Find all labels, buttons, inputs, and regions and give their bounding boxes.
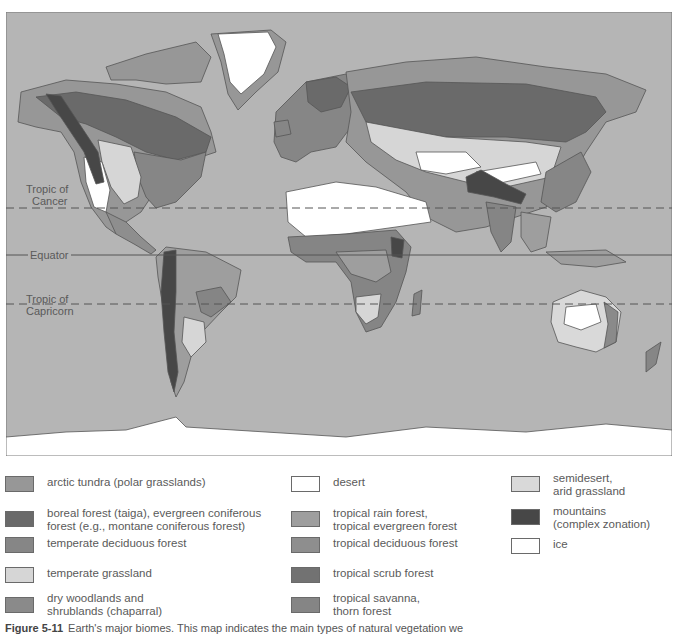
legend-label: mountains (complex zonation) bbox=[553, 505, 650, 531]
legend-label: ice bbox=[553, 538, 568, 551]
legend-item-boreal-forest: boreal forest (taiga), evergreen conifer… bbox=[5, 507, 261, 533]
legend-item-tropical-savanna: tropical savanna, thorn forest bbox=[291, 592, 420, 618]
label-line: Cancer bbox=[32, 195, 68, 207]
british-isles bbox=[274, 120, 291, 137]
legend-swatch bbox=[511, 509, 540, 525]
caption-text: Earth's major biomes. This map indicates… bbox=[68, 622, 463, 634]
legend-item-tropical-rain-forest: tropical rain forest, tropical evergreen… bbox=[291, 507, 457, 533]
figure-number: Figure 5-11 bbox=[5, 622, 63, 634]
legend-swatch bbox=[5, 511, 34, 527]
legend-swatch bbox=[5, 476, 34, 492]
legend-item-tropical-scrub: tropical scrub forest bbox=[291, 567, 433, 583]
legend-swatch bbox=[5, 597, 34, 613]
legend-swatch bbox=[291, 597, 320, 613]
label-line: Tropic of bbox=[26, 293, 74, 305]
legend-label: tropical scrub forest bbox=[333, 567, 433, 580]
legend-item-mountains: mountains (complex zonation) bbox=[511, 505, 650, 531]
legend-label: tropical deciduous forest bbox=[333, 537, 458, 550]
legend-swatch bbox=[291, 537, 320, 553]
legend-swatch bbox=[511, 476, 540, 492]
label-line: Capricorn bbox=[26, 305, 74, 317]
legend-item-temperate-grassland: temperate grassland bbox=[5, 567, 152, 583]
legend-label: semidesert, arid grassland bbox=[553, 472, 625, 498]
legend-swatch bbox=[5, 537, 34, 553]
label-line: Tropic of bbox=[26, 183, 68, 195]
legend-label: boreal forest (taiga), evergreen conifer… bbox=[47, 507, 261, 533]
legend-swatch bbox=[291, 511, 320, 527]
legend-label: temperate deciduous forest bbox=[47, 537, 186, 550]
world-biome-map: Tropic of Cancer Equator Tropic of Capri… bbox=[6, 12, 672, 456]
legend-item-dry-woodlands: dry woodlands and shrublands (chaparral) bbox=[5, 592, 162, 618]
tropic-of-cancer-label: Tropic of Cancer bbox=[26, 183, 68, 207]
legend-item-semidesert: semidesert, arid grassland bbox=[511, 472, 625, 498]
legend-item-desert: desert bbox=[291, 476, 365, 492]
legend-swatch bbox=[291, 567, 320, 583]
legend-label: tropical rain forest, tropical evergreen… bbox=[333, 507, 457, 533]
legend-item-ice: ice bbox=[511, 538, 568, 554]
legend-swatch bbox=[511, 538, 540, 554]
legend-label: tropical savanna, thorn forest bbox=[333, 592, 420, 618]
legend-item-tropical-deciduous: tropical deciduous forest bbox=[291, 537, 458, 553]
legend-label: temperate grassland bbox=[47, 567, 152, 580]
legend-swatch bbox=[291, 476, 320, 492]
legend-label: arctic tundra (polar grasslands) bbox=[47, 476, 206, 489]
figure-caption: Figure 5-11Earth's major biomes. This ma… bbox=[5, 622, 463, 634]
equator-label: Equator bbox=[28, 249, 71, 261]
legend-swatch bbox=[5, 567, 34, 583]
legend-item-arctic-tundra: arctic tundra (polar grasslands) bbox=[5, 476, 206, 492]
legend-label: dry woodlands and shrublands (chaparral) bbox=[47, 592, 162, 618]
tropic-of-capricorn-label: Tropic of Capricorn bbox=[26, 293, 74, 317]
map-legend: arctic tundra (polar grasslands) boreal … bbox=[0, 468, 677, 618]
map-svg bbox=[6, 12, 672, 456]
legend-item-temperate-deciduous: temperate deciduous forest bbox=[5, 537, 186, 553]
legend-label: desert bbox=[333, 476, 365, 489]
